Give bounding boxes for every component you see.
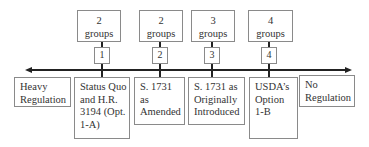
label-line: 3194 (Opt.: [80, 106, 129, 119]
label-line: S. 1731: [140, 81, 184, 94]
label-heavy-regulation: Heavy Regulation: [14, 77, 71, 107]
label-line: as: [140, 94, 184, 107]
groups-box-2: 2 groups: [139, 10, 183, 42]
label-line: USDA’s: [255, 81, 297, 94]
number-box-3: 3: [204, 47, 220, 64]
label-line: Introduced: [194, 106, 244, 119]
group-count: 2: [140, 15, 182, 28]
label-line: Amended: [140, 106, 184, 119]
label-line: Regulation: [20, 94, 70, 107]
groups-box-1: 2 groups: [77, 10, 121, 42]
group-count: 2: [78, 15, 120, 28]
label-status-quo: Status Quo and H.R. 3194 (Opt. 1-A): [74, 77, 130, 139]
label-line: Status Quo: [80, 81, 129, 94]
label-line: Heavy: [20, 81, 70, 94]
label-no-regulation: No Regulation: [299, 75, 355, 107]
group-count: 3: [192, 15, 234, 28]
number-box-2: 2: [152, 47, 168, 64]
groups-box-4: 4 groups: [248, 10, 293, 42]
group-unit: groups: [140, 28, 182, 41]
label-usda-option: USDA’s Option 1-B: [249, 77, 298, 139]
number-box-4: 4: [261, 47, 277, 64]
group-count: 4: [249, 15, 292, 28]
spectrum-axis-line: [30, 69, 346, 71]
right-arrowhead-icon: [345, 67, 352, 73]
group-unit: groups: [192, 28, 234, 41]
label-s1731-amended: S. 1731 as Amended: [134, 77, 185, 125]
group-unit: groups: [249, 28, 292, 41]
label-line: No: [305, 79, 354, 92]
number-box-1: 1: [94, 47, 110, 64]
groups-box-3: 3 groups: [191, 10, 235, 42]
label-line: 1-A): [80, 119, 129, 132]
label-s1731-original: S. 1731 as Originally Introduced: [188, 77, 245, 125]
group-unit: groups: [78, 28, 120, 41]
label-line: 1-B: [255, 106, 297, 119]
label-line: S. 1731 as: [194, 81, 244, 94]
label-line: Option: [255, 94, 297, 107]
label-line: and H.R.: [80, 94, 129, 107]
label-line: Regulation: [305, 92, 354, 105]
label-line: Originally: [194, 94, 244, 107]
